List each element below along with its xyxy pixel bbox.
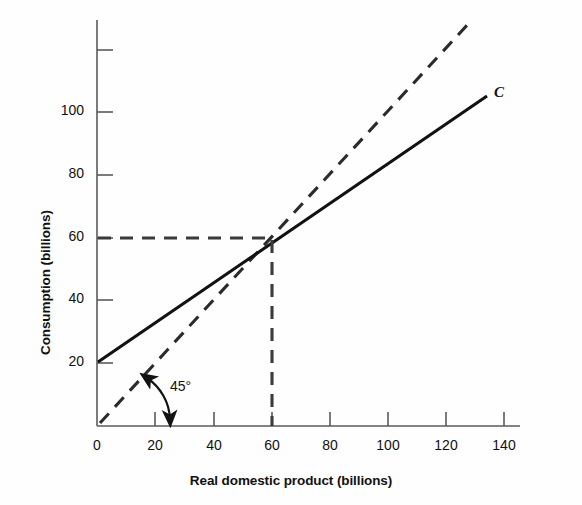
x-tick-label-140: 140: [484, 437, 524, 453]
consumption-schedule-line: [98, 96, 487, 362]
x-tick-label-60: 60: [252, 437, 292, 453]
y-tick-label-80: 80: [44, 165, 84, 181]
x-axis-title: Real domestic product (billions): [0, 473, 582, 488]
angle-label-45-degrees: 45°: [170, 378, 191, 394]
angle-arc-arrow: [147, 378, 170, 419]
chart-plot-area: [0, 0, 582, 505]
y-axis-title: Consumption (billions): [38, 210, 53, 355]
x-axis-ticks: [155, 412, 504, 426]
consumption-schedule-chart: 100 80 60 40 20 0 20 40 60 80 100 120 14…: [0, 0, 582, 505]
x-tick-label-0: 0: [77, 437, 117, 453]
series-label-c: C: [494, 84, 504, 101]
y-axis-ticks: [97, 50, 113, 363]
x-tick-label-40: 40: [194, 437, 234, 453]
y-tick-label-100: 100: [44, 102, 84, 118]
x-tick-label-80: 80: [310, 437, 350, 453]
forty-five-degree-line: [100, 22, 470, 423]
y-tick-label-20: 20: [44, 353, 84, 369]
x-tick-label-20: 20: [135, 437, 175, 453]
x-tick-label-120: 120: [426, 437, 466, 453]
x-tick-label-100: 100: [368, 437, 408, 453]
